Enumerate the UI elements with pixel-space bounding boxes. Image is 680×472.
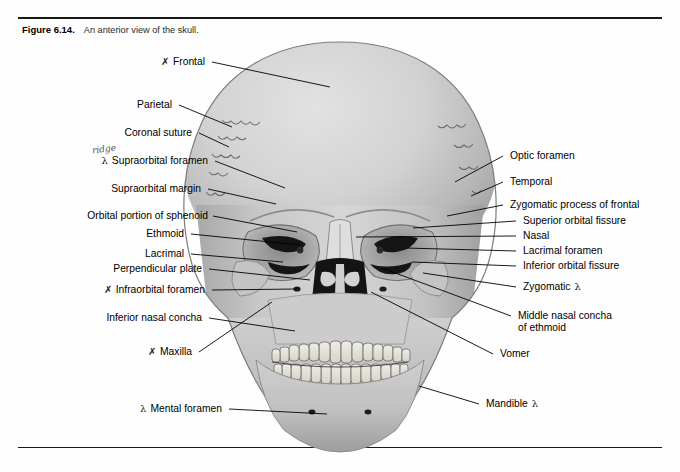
label-text: Vomer bbox=[500, 348, 530, 359]
label-text: Inferior nasal concha bbox=[106, 312, 202, 323]
label-nasal: Nasal bbox=[523, 230, 549, 242]
handwritten-tick-infraorbital-foramen: ✗ bbox=[104, 284, 112, 295]
label-zygomatic-process-frontal: Zygomatic process of frontal bbox=[510, 199, 639, 211]
label-text: Temporal bbox=[510, 176, 552, 187]
label-middle-nasal-concha: Middle nasal conchaof ethmoid bbox=[518, 310, 612, 333]
leader-ethmoid bbox=[191, 234, 300, 245]
label-ethmoid: Ethmoid bbox=[146, 228, 184, 240]
label-text: Lacrimal bbox=[145, 248, 184, 259]
label-optic-foramen: Optic foramen bbox=[510, 150, 575, 162]
leader-inferior-nasal-concha bbox=[209, 318, 295, 331]
label-text: Ethmoid bbox=[146, 228, 184, 239]
leader-orbital-sphenoid bbox=[213, 216, 297, 232]
leader-superior-orbital-fissure bbox=[413, 221, 516, 228]
label-text: Inferior orbital fissure bbox=[523, 260, 619, 271]
handwritten-tick-mental-foramen: λ bbox=[140, 403, 146, 414]
leader-temporal bbox=[471, 182, 503, 196]
label-text: Zygomatic bbox=[523, 281, 571, 292]
label-text: Middle nasal concha bbox=[518, 310, 612, 321]
leader-nasal bbox=[356, 236, 516, 237]
label-coronal-suture: Coronal suture bbox=[124, 127, 192, 139]
label-text: Infraorbital foramen bbox=[116, 284, 205, 295]
leader-optic-foramen bbox=[455, 156, 503, 182]
label-text: Mandible bbox=[486, 398, 528, 409]
leader-lacrimal bbox=[191, 254, 283, 262]
label-text: Superior orbital fissure bbox=[523, 215, 626, 226]
label-lacrimal-foramen: Lacrimal foramen bbox=[523, 245, 603, 257]
label-text: Coronal suture bbox=[124, 127, 192, 138]
handwritten-tick-zygomatic: λ bbox=[575, 281, 581, 292]
leader-lacrimal-foramen bbox=[405, 248, 516, 251]
leader-lines bbox=[0, 0, 680, 472]
label-mental-foramen: λMental foramen bbox=[140, 403, 222, 415]
label-text: Maxilla bbox=[160, 346, 192, 357]
handwritten-tick-frontal: ✗ bbox=[161, 56, 169, 67]
label-vomer: Vomer bbox=[500, 348, 530, 360]
label-subline: of ethmoid bbox=[518, 322, 612, 334]
handwritten-tick-mandible: λ bbox=[532, 398, 538, 409]
leader-frontal bbox=[212, 62, 330, 87]
label-inferior-nasal-concha: Inferior nasal concha bbox=[106, 312, 202, 324]
handwritten-tick-maxilla: ✗ bbox=[148, 346, 156, 357]
label-infraorbital-foramen: ✗Infraorbital foramen bbox=[104, 284, 205, 296]
leader-mental-foramen bbox=[229, 409, 327, 414]
label-text: Orbital portion of sphenoid bbox=[87, 210, 208, 221]
label-parietal: Parietal bbox=[137, 99, 172, 111]
leader-vomer bbox=[371, 292, 493, 354]
label-text: Nasal bbox=[523, 230, 549, 241]
label-text: Lacrimal foramen bbox=[523, 245, 603, 256]
leader-coronal-suture bbox=[199, 133, 229, 147]
label-frontal: ✗Frontal bbox=[161, 56, 205, 68]
leader-supraorbital-margin bbox=[208, 189, 276, 204]
label-perpendicular-plate: Perpendicular plate bbox=[113, 263, 202, 275]
label-temporal: Temporal bbox=[510, 176, 552, 188]
label-mandible: Mandibleλ bbox=[486, 398, 538, 410]
leader-infraorbital-foramen bbox=[212, 289, 297, 290]
label-text: Zygomatic process of frontal bbox=[510, 199, 639, 210]
label-text: Optic foramen bbox=[510, 150, 575, 161]
label-zygomatic: Zygomaticλ bbox=[523, 281, 581, 293]
label-text: Mental foramen bbox=[150, 403, 222, 414]
label-text: Frontal bbox=[173, 56, 205, 67]
leader-parietal bbox=[179, 105, 232, 127]
leader-inferior-orbital-fissure bbox=[412, 262, 516, 266]
label-supraorbital-foramen: λSupraorbital foramen bbox=[102, 155, 209, 167]
label-supraorbital-margin: Supraorbital margin bbox=[111, 183, 201, 195]
leader-perpendicular-plate bbox=[209, 269, 310, 280]
label-orbital-sphenoid: Orbital portion of sphenoid bbox=[87, 210, 208, 222]
leader-zygomatic-process-frontal bbox=[447, 205, 503, 216]
label-text: Parietal bbox=[137, 99, 172, 110]
label-text: Supraorbital margin bbox=[111, 183, 201, 194]
label-lacrimal: Lacrimal bbox=[145, 248, 184, 260]
label-inferior-orbital-fissure: Inferior orbital fissure bbox=[523, 260, 619, 272]
label-maxilla: ✗Maxilla bbox=[148, 346, 192, 358]
leader-mandible bbox=[419, 386, 479, 404]
label-superior-orbital-fissure: Superior orbital fissure bbox=[523, 215, 626, 227]
handwritten-tick-supraorbital-foramen: λ bbox=[102, 155, 108, 166]
label-text: Supraorbital foramen bbox=[112, 155, 208, 166]
label-text: Perpendicular plate bbox=[113, 263, 202, 274]
leader-zygomatic bbox=[423, 273, 516, 287]
leader-supraorbital-foramen bbox=[215, 161, 285, 188]
figure-container: Figure 6.14.An anterior view of the skul… bbox=[0, 0, 680, 472]
leader-middle-nasal-concha bbox=[382, 268, 511, 316]
leader-maxilla bbox=[199, 302, 272, 352]
